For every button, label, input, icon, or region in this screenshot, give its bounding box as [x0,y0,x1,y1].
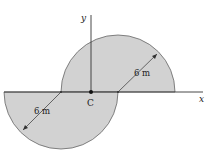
upper-radius-label: 6 m [134,68,150,78]
y-axis-label: y [80,13,87,23]
lower-semicircle [4,92,118,149]
centroid-point [89,90,93,94]
composite-area-diagram: y x C 6 m 6 m [0,0,210,152]
x-axis-label: x [199,94,204,104]
lower-radius-label: 6 m [34,106,50,116]
upper-semicircle [61,35,175,92]
centroid-label: C [87,98,94,108]
